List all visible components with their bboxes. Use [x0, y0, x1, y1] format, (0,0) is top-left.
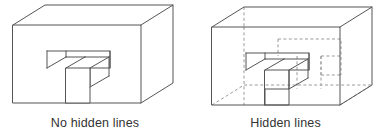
- figure-panel-hidden-lines: Hidden lines: [190, 0, 381, 140]
- solid-block-no-hidden-lines-drawing: [0, 0, 190, 116]
- center-tab-face: [66, 68, 90, 103]
- caption-hidden-lines: Hidden lines: [190, 116, 381, 130]
- hidden-edge-bottom-back-left: [212, 85, 244, 105]
- notch-depth-line-top-left: [246, 59, 265, 70]
- right-face-outline: [340, 7, 372, 105]
- center-tab-front-outline: [265, 70, 289, 105]
- caption-no-hidden-lines: No hidden lines: [0, 116, 190, 130]
- center-tab-top-receding-left: [265, 59, 284, 70]
- notch-visible-edges: [246, 53, 309, 105]
- figure-panel-no-hidden-lines: No hidden lines: [0, 0, 190, 140]
- notch-opening-outline: [246, 53, 309, 105]
- notch-right-pocket-depth: [289, 78, 308, 89]
- center-tab-top-receding-right: [289, 59, 308, 70]
- wireframe-block-hidden-lines-drawing: [190, 0, 381, 116]
- hidden-line-comparison-figure: No hidden lines: [0, 0, 381, 140]
- top-face-outline: [212, 7, 372, 27]
